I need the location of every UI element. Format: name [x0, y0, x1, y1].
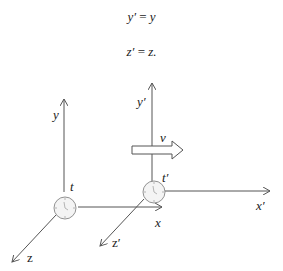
z-prime-axis	[100, 199, 144, 246]
y-prime-axis-label: y′	[135, 94, 146, 109]
velocity-arrow: v	[132, 130, 183, 159]
z-axis-label: z	[27, 250, 33, 265]
z-axis	[12, 215, 56, 262]
velocity-arrow-icon	[132, 141, 183, 159]
reference-frames-diagram: y x z t y′ x′ z′ t′ v	[0, 0, 283, 271]
z-prime-axis-label: z′	[112, 235, 121, 250]
frame-s-prime: y′ x′ z′ t′	[100, 83, 270, 250]
velocity-label: v	[160, 130, 166, 145]
clock-prime-time-label: t′	[162, 170, 169, 185]
clock-time-label: t	[70, 179, 74, 194]
y-axis-label: y	[51, 107, 59, 122]
frame-s: y x z t	[12, 99, 162, 265]
x-prime-axis-label: x′	[255, 198, 265, 213]
clock-icon	[54, 197, 76, 219]
x-axis-label: x	[154, 215, 161, 230]
